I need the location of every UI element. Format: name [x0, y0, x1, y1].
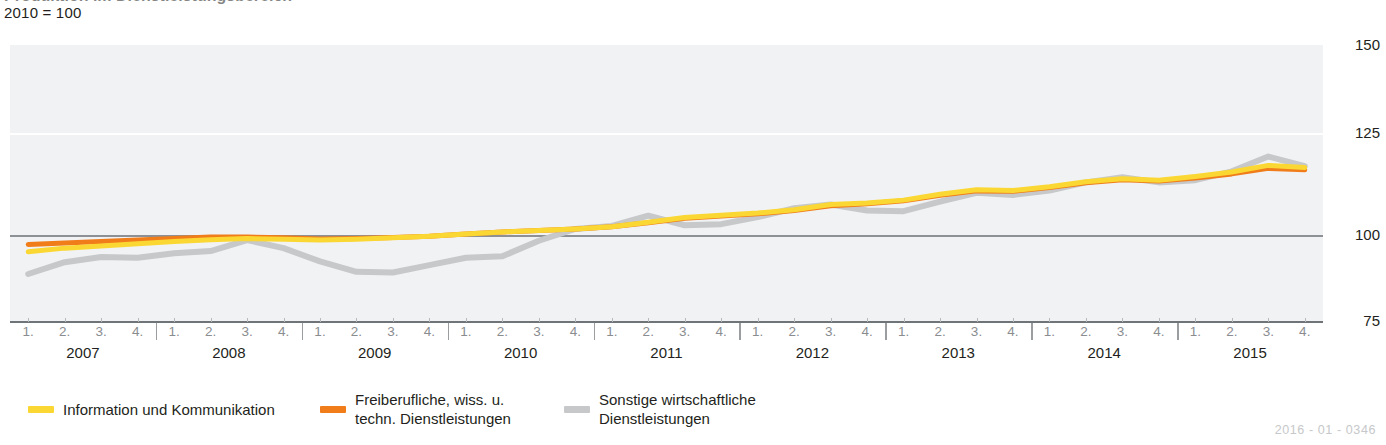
y-tick-75: 75 [1332, 312, 1380, 329]
x-quarter-label: 4. [1299, 324, 1310, 339]
x-quarter-label: 3. [241, 324, 252, 339]
x-quarter-label: 2. [934, 324, 945, 339]
x-quarter-label: 4. [570, 324, 581, 339]
x-quarter-tick [1049, 318, 1050, 322]
series-line-information [28, 165, 1305, 251]
x-quarter-tick [211, 318, 212, 322]
x-quarter-label: 3. [1263, 324, 1274, 339]
x-year-label-2014: 2014 [1087, 344, 1120, 361]
x-year-label-2015: 2015 [1233, 344, 1266, 361]
legend-swatch-icon-sonstige [564, 406, 590, 413]
x-quarter-tick [28, 318, 29, 322]
x-quarter-tick [65, 318, 66, 322]
x-quarter-label: 1. [1044, 324, 1055, 339]
x-quarter-tick [575, 318, 576, 322]
y-tick-125: 125 [1332, 124, 1380, 141]
x-quarter-tick [758, 318, 759, 322]
x-quarter-tick [356, 318, 357, 322]
chart-legend: Information und KommunikationFreiberufli… [8, 384, 1208, 436]
x-quarter-label: 4. [424, 324, 435, 339]
x-quarter-tick [977, 318, 978, 322]
x-quarter-tick [502, 318, 503, 322]
x-year-separator [1177, 323, 1178, 340]
x-quarter-label: 1. [314, 324, 325, 339]
x-quarter-tick [247, 318, 248, 322]
y-tick-100: 100 [1332, 226, 1380, 243]
x-quarter-label: 3. [971, 324, 982, 339]
x-quarter-tick [1268, 318, 1269, 322]
x-quarter-label: 4. [132, 324, 143, 339]
x-quarter-label: 4. [1153, 324, 1164, 339]
x-year-separator [156, 323, 157, 340]
x-quarter-label: 4. [278, 324, 289, 339]
series-lines [10, 45, 1323, 322]
x-quarter-label: 4. [716, 324, 727, 339]
legend-label-freiberufliche: Freiberufliche, wiss. u. techn. Dienstle… [355, 390, 511, 428]
x-year-separator [739, 323, 740, 340]
x-quarter-tick [831, 318, 832, 322]
x-quarter-label: 1. [752, 324, 763, 339]
x-quarter-label: 2. [1226, 324, 1237, 339]
x-quarter-tick [1013, 318, 1014, 322]
legend-swatch-icon-information [28, 406, 54, 413]
legend-item-information[interactable]: Information und Kommunikation [28, 400, 275, 419]
x-quarter-tick [174, 318, 175, 322]
x-quarter-label: 1. [1190, 324, 1201, 339]
x-quarter-label: 2. [59, 324, 70, 339]
x-year-label-2013: 2013 [942, 344, 975, 361]
x-quarter-label: 2. [643, 324, 654, 339]
x-quarter-tick [904, 318, 905, 322]
x-year-separator [1031, 323, 1032, 340]
x-quarter-tick [393, 318, 394, 322]
x-quarter-label: 2. [497, 324, 508, 339]
x-quarter-label: 3. [1117, 324, 1128, 339]
x-quarter-tick [1159, 318, 1160, 322]
x-year-label-2010: 2010 [504, 344, 537, 361]
x-axis: 1.2.3.4.20071.2.3.4.20081.2.3.4.20091.2.… [10, 322, 1323, 372]
x-quarter-tick [612, 318, 613, 322]
x-quarter-label: 2. [205, 324, 216, 339]
x-year-label-2011: 2011 [650, 344, 682, 361]
x-year-separator [885, 323, 886, 340]
x-quarter-tick [1232, 318, 1233, 322]
x-quarter-label: 1. [168, 324, 179, 339]
series-line-sonstige [28, 157, 1305, 274]
x-year-label-2009: 2009 [358, 344, 391, 361]
legend-item-freiberufliche[interactable]: Freiberufliche, wiss. u. techn. Dienstle… [320, 390, 511, 428]
x-quarter-tick [685, 318, 686, 322]
x-quarter-tick [539, 318, 540, 322]
plot-area [10, 45, 1323, 322]
x-quarter-tick [940, 318, 941, 322]
x-year-label-2008: 2008 [212, 344, 245, 361]
legend-label-information: Information und Kommunikation [63, 400, 275, 419]
legend-item-sonstige[interactable]: Sonstige wirtschaftliche Dienstleistunge… [564, 390, 756, 428]
x-quarter-label: 3. [96, 324, 107, 339]
legend-label-sonstige: Sonstige wirtschaftliche Dienstleistunge… [599, 390, 756, 428]
x-quarter-label: 2. [351, 324, 362, 339]
x-quarter-tick [1086, 318, 1087, 322]
x-quarter-label: 4. [1007, 324, 1018, 339]
x-quarter-label: 2. [789, 324, 800, 339]
x-quarter-label: 3. [387, 324, 398, 339]
x-quarter-tick [1195, 318, 1196, 322]
x-quarter-label: 1. [898, 324, 909, 339]
x-quarter-label: 1. [460, 324, 471, 339]
x-year-label-2007: 2007 [66, 344, 99, 361]
x-year-separator [302, 323, 303, 340]
chart-page: Produktion im Dienstleistungsbereich 201… [0, 0, 1386, 445]
x-quarter-tick [1305, 318, 1306, 322]
legend-swatch-icon-freiberufliche [320, 406, 346, 413]
x-quarter-label: 3. [533, 324, 544, 339]
chart-subtitle-index-note: 2010 = 100 [4, 4, 82, 21]
x-quarter-tick [101, 318, 102, 322]
x-quarter-label: 3. [679, 324, 690, 339]
x-year-separator [448, 323, 449, 340]
x-quarter-tick [721, 318, 722, 322]
x-year-label-2012: 2012 [796, 344, 829, 361]
x-year-separator [594, 323, 595, 340]
y-tick-150: 150 [1332, 36, 1380, 53]
x-quarter-label: 1. [23, 324, 34, 339]
x-quarter-label: 4. [861, 324, 872, 339]
x-quarter-tick [466, 318, 467, 322]
document-reference: 2016 - 01 - 0346 [1275, 423, 1376, 437]
